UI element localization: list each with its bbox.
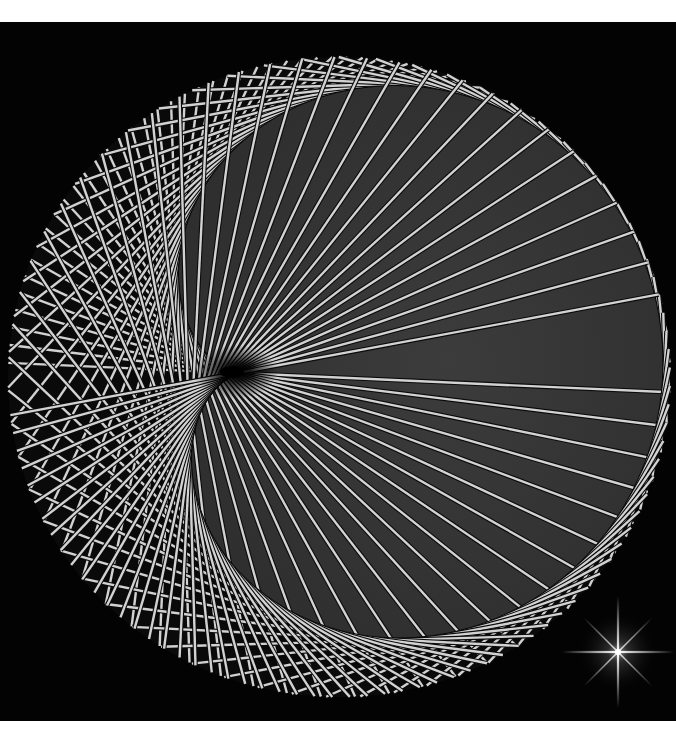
artwork-panel: [0, 22, 676, 721]
spiral-eye: [194, 345, 279, 399]
sparkle-icon: [562, 596, 674, 708]
string-art-canvas: [0, 22, 676, 721]
